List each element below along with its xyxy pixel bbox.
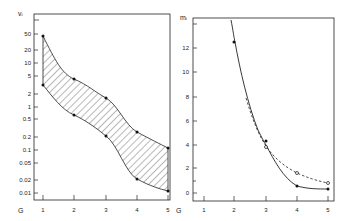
svg-text:6: 6 xyxy=(186,118,190,124)
left-y-ticks xyxy=(34,20,39,193)
svg-text:20: 20 xyxy=(24,47,31,53)
left-chart: vᵢ G 50 20 10 5 2 1 0.5 0.2 0. xyxy=(18,10,170,214)
right-dashed-curve xyxy=(246,98,328,183)
svg-text:10: 10 xyxy=(182,69,189,75)
svg-text:5: 5 xyxy=(28,73,32,79)
svg-text:2: 2 xyxy=(186,165,190,171)
svg-text:2: 2 xyxy=(28,91,32,97)
svg-text:50: 50 xyxy=(24,31,31,37)
svg-text:12: 12 xyxy=(182,45,189,51)
svg-text:3: 3 xyxy=(104,207,108,213)
svg-text:0.2: 0.2 xyxy=(23,134,32,140)
svg-text:2: 2 xyxy=(72,207,76,213)
svg-text:1: 1 xyxy=(41,207,45,213)
svg-text:2: 2 xyxy=(232,207,236,213)
right-x-tick-labels: 1 2 3 4 5 xyxy=(202,207,330,213)
right-open-points xyxy=(265,146,330,185)
svg-text:0.01: 0.01 xyxy=(19,190,31,196)
svg-text:10: 10 xyxy=(24,60,31,66)
right-solid-curve xyxy=(231,20,328,189)
left-hatched-band xyxy=(43,36,168,191)
left-x-axis-label: G xyxy=(18,207,23,214)
right-y-axis-label: mᵢ xyxy=(180,14,187,21)
left-x-ticks xyxy=(43,195,168,200)
right-solid-points xyxy=(233,41,330,191)
svg-text:0.1: 0.1 xyxy=(23,147,32,153)
right-x-ticks xyxy=(204,196,328,201)
svg-text:1: 1 xyxy=(202,207,206,213)
left-y-tick-labels: 50 20 10 5 2 1 0.5 0.2 0.1 0.05 0.02 0.0… xyxy=(19,31,31,196)
svg-text:5: 5 xyxy=(166,207,170,213)
svg-text:0.05: 0.05 xyxy=(19,160,31,166)
svg-text:8: 8 xyxy=(186,94,190,100)
svg-text:4: 4 xyxy=(295,207,299,213)
left-y-axis-label: vᵢ xyxy=(18,10,23,17)
right-y-tick-labels: 12 10 8 6 4 2 0 xyxy=(182,45,189,196)
svg-text:3: 3 xyxy=(264,207,268,213)
svg-text:5: 5 xyxy=(326,207,330,213)
svg-text:0: 0 xyxy=(186,190,190,196)
svg-text:4: 4 xyxy=(135,207,139,213)
right-y-ticks xyxy=(193,24,197,193)
svg-text:0.5: 0.5 xyxy=(23,116,32,122)
svg-text:0.02: 0.02 xyxy=(19,177,31,183)
figure: vᵢ G 50 20 10 5 2 1 0.5 0.2 0. xyxy=(0,0,348,221)
left-x-tick-labels: 1 2 3 4 5 xyxy=(41,207,170,213)
svg-text:1: 1 xyxy=(28,104,32,110)
right-chart: mᵢ G 12 10 8 6 4 2 0 xyxy=(176,14,334,214)
svg-text:4: 4 xyxy=(186,142,190,148)
right-x-axis-label: G xyxy=(176,207,181,214)
right-plot-frame xyxy=(193,18,334,201)
